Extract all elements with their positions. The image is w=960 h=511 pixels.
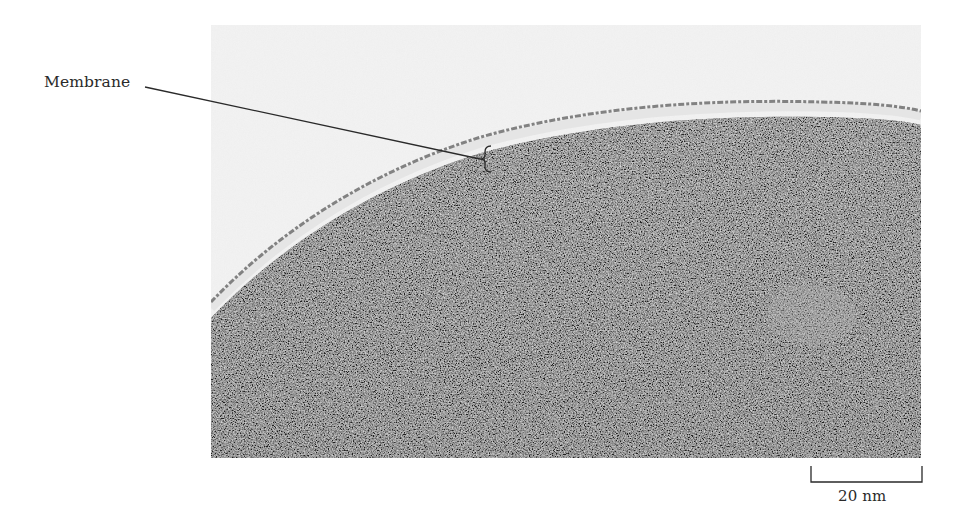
scale-bar-label: 20 nm	[838, 487, 886, 505]
scale-bar	[811, 466, 922, 482]
annotation-layer	[0, 0, 960, 511]
membrane-bracket-icon	[480, 146, 491, 172]
membrane-label: Membrane	[44, 73, 130, 91]
membrane-leader-line	[145, 87, 480, 159]
